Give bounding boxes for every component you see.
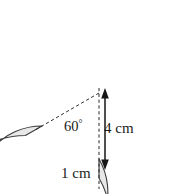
ring-diagram-figure: 60° 4 cm 1 cm	[0, 0, 189, 194]
ring-diagram-svg	[0, 0, 189, 194]
ring-band-shape	[0, 126, 110, 194]
angle-label: 60°	[64, 119, 83, 134]
degree-symbol-icon: °	[79, 118, 83, 129]
inner-radius-label: 4 cm	[104, 121, 134, 136]
band-thickness-label: 1 cm	[61, 166, 91, 181]
angle-value: 60	[64, 118, 79, 134]
